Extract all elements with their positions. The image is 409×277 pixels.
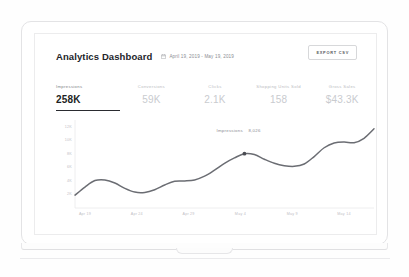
metric-tab-conversions[interactable]: Conversions 59K xyxy=(120,84,184,111)
metric-tabs: Impressions 258K Conversions 59K Clicks … xyxy=(56,84,374,111)
x-axis-labels: Apr 19Apr 24Apr 29May 4May 9May 14 xyxy=(75,212,374,222)
device-frame: Analytics Dashboard April 19, 2019 - May… xyxy=(21,21,388,245)
metric-label: Impressions xyxy=(56,84,120,89)
impressions-line-chart: 12K10K8K6K4K2K Apr 19Apr 24Apr 29May 4Ma… xyxy=(56,120,374,228)
date-range-picker[interactable]: April 19, 2019 - May 19, 2019 xyxy=(161,54,234,59)
y-axis-tick: 10K xyxy=(65,138,72,142)
chart-plot-area[interactable] xyxy=(75,120,374,208)
highlighted-data-point[interactable] xyxy=(243,152,247,156)
y-axis-tick: 6K xyxy=(67,165,72,169)
export-csv-button[interactable]: EXPORT CSV xyxy=(308,45,357,60)
metric-label: Clicks xyxy=(183,84,247,89)
calendar-icon xyxy=(161,54,166,59)
y-axis-labels: 12K10K8K6K4K2K xyxy=(56,120,72,208)
x-axis-tick: May 9 xyxy=(287,212,298,216)
metric-label: Shopping Units Sold xyxy=(247,84,311,89)
date-range-text: April 19, 2019 - May 19, 2019 xyxy=(169,54,234,59)
metric-value: 2.1K xyxy=(183,94,247,105)
y-axis-tick: 8K xyxy=(67,152,72,156)
x-axis-tick: Apr 19 xyxy=(79,212,91,216)
metric-tab-gross-sales[interactable]: Gross Sales $43.3K xyxy=(310,84,374,111)
metric-value: 158 xyxy=(247,94,311,105)
surface-line xyxy=(20,258,390,259)
metric-tab-clicks[interactable]: Clicks 2.1K xyxy=(183,84,247,111)
tooltip-value: 8,026 xyxy=(248,128,260,133)
metric-value: 59K xyxy=(120,94,184,105)
metric-tab-shopping-units-sold[interactable]: Shopping Units Sold 158 xyxy=(247,84,311,111)
y-axis-tick: 4K xyxy=(67,179,72,183)
device-base-notch xyxy=(176,248,233,254)
y-axis-tick: 2K xyxy=(67,192,72,196)
device-screen-bezel: Analytics Dashboard April 19, 2019 - May… xyxy=(34,33,377,235)
tooltip-label: Impressions xyxy=(216,128,242,133)
x-axis-tick: May 4 xyxy=(235,212,246,216)
page-title: Analytics Dashboard xyxy=(56,51,152,62)
impressions-data-line xyxy=(75,129,374,195)
x-axis-tick: Apr 24 xyxy=(131,212,143,216)
metric-value: $43.3K xyxy=(310,94,374,105)
dashboard-header: Analytics Dashboard April 19, 2019 - May… xyxy=(56,48,234,64)
x-axis-tick: May 14 xyxy=(337,212,350,216)
chart-tooltip: Impressions 8,026 xyxy=(216,128,260,133)
screenshot-root: Analytics Dashboard April 19, 2019 - May… xyxy=(0,0,409,277)
x-axis-tick: Apr 29 xyxy=(183,212,195,216)
metric-tab-impressions[interactable]: Impressions 258K xyxy=(56,84,120,111)
y-axis-tick: 12K xyxy=(65,125,72,129)
dashboard-screen: Analytics Dashboard April 19, 2019 - May… xyxy=(35,34,376,234)
metric-label: Conversions xyxy=(120,84,184,89)
metric-label: Gross Sales xyxy=(310,84,374,89)
chart-svg xyxy=(75,120,374,208)
metric-value: 258K xyxy=(56,94,120,105)
